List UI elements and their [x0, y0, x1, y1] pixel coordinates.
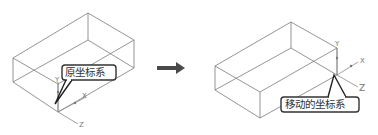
left-x-axis-label: X: [82, 92, 87, 100]
right-z-axis-label: Z: [359, 84, 365, 92]
right-x-axis-label: X: [360, 57, 365, 65]
left-callout-label: 原坐标系: [65, 66, 105, 78]
diagram-canvas: [0, 0, 378, 135]
right-arrow-icon: [157, 62, 185, 74]
left-coordinate-axes: [57, 82, 86, 124]
right-callout-label: 移动的坐标系: [285, 98, 345, 110]
right-coordinate-axes: [336, 48, 358, 87]
left-y-axis-label: Y: [55, 76, 59, 84]
left-z-axis-label: Z: [79, 121, 84, 129]
left-box: [13, 13, 134, 112]
right-y-axis-label: Y: [335, 40, 339, 48]
